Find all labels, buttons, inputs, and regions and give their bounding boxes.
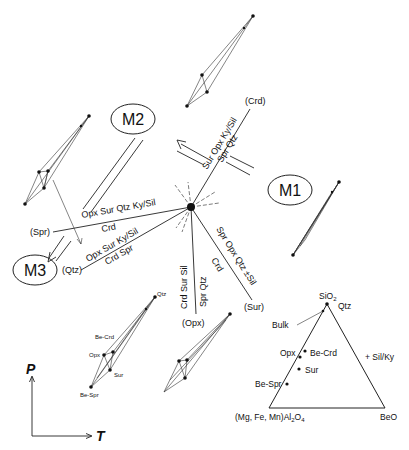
small-label-opx: Opx xyxy=(89,352,100,358)
reaction-sur-lower: Crd xyxy=(209,256,225,274)
ternary-label-be-crd: Be-Crd xyxy=(310,348,337,358)
absent-phase-spr: (Spr) xyxy=(30,227,50,237)
petrogenetic-grid-diagram: (Crd) Sur Opx Ky/Sil Spr Qtz (Spr) Opx S… xyxy=(0,0,409,450)
ternary-apex-sio2: SiO2 xyxy=(319,291,337,302)
ternary-label-bulk: Bulk xyxy=(272,320,289,330)
reaction-labels: (Crd) Sur Opx Ky/Sil Spr Qtz (Spr) Opx S… xyxy=(30,96,266,328)
reaction-opx-left: Crd Sur Sil xyxy=(179,265,189,309)
reaction-spr-upper: Opx Sur Qtz Ky/Sil xyxy=(81,197,157,220)
stage-m3-label: M3 xyxy=(24,262,46,279)
p-axis-label: P xyxy=(26,361,36,377)
stage-m1-label: M1 xyxy=(279,182,301,199)
ternary-apex-beo: BeO xyxy=(380,412,397,422)
small-label-be-spr: Be-Spr xyxy=(80,392,99,398)
ternary-excess-phase: + Sil/Ky xyxy=(365,352,395,362)
absent-phase-crd: (Crd) xyxy=(245,96,266,106)
reaction-sur-upper: Spr Opx Qtz ±Sil xyxy=(214,225,258,287)
absent-phase-sur: (Sur) xyxy=(244,302,264,312)
projection-left xyxy=(23,114,91,244)
ternary-label-be-spr: Be-Spr xyxy=(255,379,282,389)
ternary-label-qtz: Qtz xyxy=(338,301,351,311)
ternary-label-sur: Sur xyxy=(305,365,318,375)
reaction-line-opx xyxy=(191,207,196,314)
projection-top xyxy=(185,14,255,108)
projection-labeled: Qtz Be-Crd Opx Sur Be-Spr xyxy=(80,291,166,398)
absent-phase-opx: (Opx) xyxy=(182,318,205,328)
small-label-sur: Sur xyxy=(114,372,123,378)
t-axis-label: T xyxy=(96,428,106,444)
invariant-point xyxy=(187,203,195,211)
metastable-extension xyxy=(191,192,215,207)
reaction-spr-lower: Crd xyxy=(101,222,117,234)
stage-markers: M2 M1 M3 xyxy=(13,104,312,285)
small-label-be-crd: Be-Crd xyxy=(95,334,114,340)
stage-m2-label: M2 xyxy=(122,111,144,128)
ternary-label-opx: Opx xyxy=(280,348,296,358)
pt-axes: P T xyxy=(26,361,106,444)
metastable-extension xyxy=(191,203,219,207)
absent-phase-qtz: (Qtz) xyxy=(62,265,82,275)
small-label-qtz: Qtz xyxy=(157,291,166,297)
reaction-opx-right: Spr Qtz xyxy=(198,276,208,307)
ternary-apex-spinel: (Mg, Fe, Mn)Al2O4 xyxy=(235,412,305,423)
